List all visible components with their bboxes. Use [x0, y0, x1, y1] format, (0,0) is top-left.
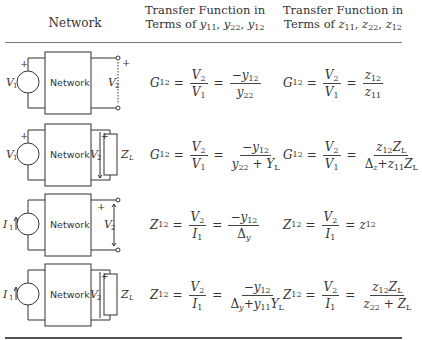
svg-text:Z: Z: [120, 288, 129, 301]
header-y-line1: Transfer Function in: [140, 3, 270, 17]
svg-text:L: L: [128, 294, 134, 302]
svg-text:+: +: [97, 201, 105, 212]
svg-text:1: 1: [9, 224, 13, 232]
header-z-line2: Terms of z11, z22, z12: [278, 17, 408, 31]
formula-y-row3: Z12= V2I1 = −y12Δy: [150, 190, 261, 260]
plus-sign-icon: +: [20, 58, 28, 69]
svg-text:2: 2: [97, 154, 101, 162]
formula-z-row1: G12= V2V1 = z12z11: [283, 48, 385, 118]
table-row-4: I1 Network + V2 ZL Z12= V2I1 = −y12Δy+y1…: [0, 260, 408, 330]
svg-text:+: +: [20, 130, 28, 141]
formula-y-row2: G12= V2V1 = −y12y22 + YL: [150, 120, 284, 190]
header-y-line2: Terms of y11, y22, y12: [140, 17, 270, 31]
svg-text:+: +: [101, 271, 109, 281]
formula-z-row2: G12= V2V1 = z12ZLΔz+z11ZL: [283, 120, 422, 190]
circuit-voltage-source-load: + V1 Network + V2 ZL: [0, 120, 140, 190]
svg-text:L: L: [128, 154, 134, 162]
network-box-label: Network: [50, 289, 90, 300]
header-network: Network: [20, 16, 130, 30]
table-row-2: + V1 Network + V2 ZL G12= V2V1 = −y12y22…: [0, 120, 408, 190]
svg-text:I: I: [2, 288, 8, 301]
svg-text:1: 1: [13, 82, 17, 90]
svg-text:2: 2: [97, 294, 101, 302]
formula-y-row1: G12= V2V1 = −y12y22: [150, 48, 263, 118]
network-box-label: Network: [50, 77, 90, 88]
table-row-1: + V1 Network + V2 G12= V2V1 = −y12y22 G1…: [0, 48, 408, 118]
svg-text:2: 2: [115, 82, 119, 90]
formula-z-row3: Z12= V2I1 = z12: [283, 190, 376, 260]
header-z-line1: Transfer Function in: [278, 3, 408, 17]
circuit-current-source-open: I1 Network + V2: [0, 190, 140, 260]
formula-y-row4: Z12= V2I1 = −y12Δy+y11YL: [150, 260, 288, 330]
svg-text:+: +: [122, 57, 130, 68]
svg-text:+: +: [101, 131, 109, 141]
svg-text:I: I: [2, 218, 8, 231]
network-box-label: Network: [50, 149, 90, 160]
header-y-parameters: Transfer Function in Terms of y11, y22, …: [140, 3, 270, 31]
header-z-parameters: Transfer Function in Terms of z11, z22, …: [278, 3, 408, 31]
formula-z-row4: Z12= V2I1 = z12ZLz22 + ZL: [283, 260, 415, 330]
circuit-voltage-source-open: + V1 Network + V2: [0, 48, 140, 118]
svg-text:1: 1: [9, 294, 13, 302]
svg-text:Z: Z: [120, 148, 129, 161]
svg-text:2: 2: [111, 224, 115, 232]
network-box-label: Network: [50, 219, 90, 230]
table-row-3: I1 Network + V2 Z12= V2I1 = −y12Δy Z12= …: [0, 190, 408, 260]
table-bottom-rule: [5, 337, 402, 339]
circuit-current-source-load: I1 Network + V2 ZL: [0, 260, 140, 330]
header-rule: [5, 42, 402, 43]
svg-text:1: 1: [13, 154, 17, 162]
